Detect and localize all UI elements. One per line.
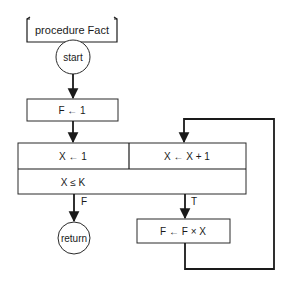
start-label: start xyxy=(63,52,83,63)
start-node: start xyxy=(56,40,90,74)
multiply-node: F ← F × X xyxy=(137,219,230,243)
return-node: return xyxy=(58,222,90,254)
init-x-label: X ← 1 xyxy=(59,151,87,162)
return-label: return xyxy=(61,233,87,244)
incr-x-label: X ← X + 1 xyxy=(164,151,210,162)
flowchart-canvas: procedure Fact start F ← 1 X ← 1 X ← X +… xyxy=(0,0,290,283)
loop-box: X ← 1 X ← X + 1 X ≤ K xyxy=(18,143,246,194)
init-f-label: F ← 1 xyxy=(58,105,86,116)
true-edge-label: T xyxy=(191,196,197,207)
procedure-label: procedure Fact xyxy=(35,24,109,36)
procedure-header: procedure Fact xyxy=(27,17,117,42)
init-f-node: F ← 1 xyxy=(27,99,118,121)
multiply-label: F ← F × X xyxy=(160,226,206,237)
condition-label: X ≤ K xyxy=(61,177,86,188)
false-edge-label: F xyxy=(81,196,87,207)
